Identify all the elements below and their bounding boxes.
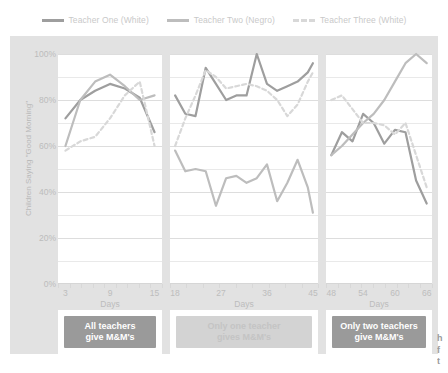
y-tick-label: 60% bbox=[22, 141, 56, 151]
x-tick-mark bbox=[252, 284, 253, 288]
x-tick-label: 27 bbox=[216, 288, 225, 298]
x-tick-mark bbox=[385, 284, 386, 288]
x-tick-label: 18 bbox=[170, 288, 179, 298]
x-tick-label: 54 bbox=[358, 288, 367, 298]
series-line-teacher-three-white bbox=[175, 70, 313, 146]
panel-1 bbox=[58, 54, 162, 284]
chart-area: Children Saying "Good Morning" 0%20%40%6… bbox=[10, 36, 438, 354]
legend-label: Teacher One (White) bbox=[69, 15, 149, 25]
line-swatch-icon bbox=[167, 19, 189, 22]
x-tick-mark bbox=[285, 284, 286, 288]
caption-line-2: gives M&M's bbox=[217, 332, 271, 342]
x-tick-mark bbox=[104, 284, 105, 288]
cropped-edge-text: hft bbox=[437, 333, 447, 367]
caption-line-1: Only one teacher bbox=[207, 321, 280, 331]
legend-item-3: Teacher Three (White) bbox=[293, 15, 407, 25]
dashed-line-swatch-icon bbox=[293, 19, 315, 22]
x-tick-mark bbox=[236, 284, 237, 288]
x-tick-mark bbox=[318, 284, 319, 288]
edge-text-line: t bbox=[437, 356, 447, 367]
panel-3 bbox=[326, 54, 432, 284]
x-tick-mark bbox=[408, 284, 409, 288]
x-tick-label: 60 bbox=[390, 288, 399, 298]
panel-3-caption: Only two teachersgive M&M's bbox=[332, 316, 426, 348]
y-tick-label: 0% bbox=[22, 279, 56, 289]
x-tick-mark bbox=[302, 284, 303, 288]
panel-1-caption: All teachersgive M&M's bbox=[64, 316, 156, 348]
x-axis-title: Days bbox=[170, 299, 318, 309]
x-tick-mark bbox=[81, 284, 82, 288]
x-tick-mark bbox=[338, 284, 339, 288]
line-swatch-icon bbox=[42, 19, 64, 22]
y-tick-label: 80% bbox=[22, 95, 56, 105]
x-tick-label: 15 bbox=[150, 288, 159, 298]
panel-3-series bbox=[326, 54, 432, 284]
x-tick-mark bbox=[162, 284, 163, 288]
caption-line-2: give M&M's bbox=[354, 332, 403, 342]
legend-label: Teacher Two (Negro) bbox=[194, 15, 275, 25]
legend-item-2: Teacher Two (Negro) bbox=[167, 15, 275, 25]
x-axis-title: Days bbox=[326, 299, 432, 309]
x-tick-mark bbox=[203, 284, 204, 288]
panel-2 bbox=[170, 54, 318, 284]
x-tick-label: 3 bbox=[63, 288, 68, 298]
chart-legend: Teacher One (White)Teacher Two (Negro)Te… bbox=[0, 10, 448, 30]
x-tick-label: 66 bbox=[422, 288, 431, 298]
x-tick-label: 36 bbox=[262, 288, 271, 298]
x-tick-mark bbox=[432, 284, 433, 288]
x-tick-mark bbox=[186, 284, 187, 288]
caption-line-1: Only two teachers bbox=[340, 321, 418, 331]
x-tick-label: 9 bbox=[108, 288, 113, 298]
x-axis-title: Days bbox=[58, 299, 162, 309]
panel-1-series bbox=[58, 54, 162, 284]
panel-2-caption: Only one teachergives M&M's bbox=[176, 316, 312, 348]
x-tick-mark bbox=[127, 284, 128, 288]
x-tick-label: 45 bbox=[308, 288, 317, 298]
series-line-teacher-two-negro bbox=[175, 151, 313, 213]
series-line-teacher-two-negro bbox=[331, 54, 426, 155]
x-tick-label: 48 bbox=[327, 288, 336, 298]
series-line-teacher-three-white bbox=[65, 82, 154, 151]
y-tick-label: 40% bbox=[22, 187, 56, 197]
y-tick-label: 100% bbox=[22, 49, 56, 59]
y-tick-label: 20% bbox=[22, 233, 56, 243]
panel-2-series bbox=[170, 54, 318, 284]
x-tick-mark bbox=[116, 284, 117, 288]
series-line-teacher-one-white bbox=[331, 114, 426, 204]
x-tick-mark bbox=[373, 284, 374, 288]
edge-text-line: h bbox=[437, 333, 447, 344]
x-tick-mark bbox=[139, 284, 140, 288]
x-tick-mark bbox=[58, 284, 59, 288]
legend-item-1: Teacher One (White) bbox=[42, 15, 149, 25]
x-tick-mark bbox=[93, 284, 94, 288]
x-tick-mark bbox=[70, 284, 71, 288]
legend-label: Teacher Three (White) bbox=[320, 15, 407, 25]
caption-line-2: give M&M's bbox=[85, 332, 134, 342]
y-axis-title: Children Saying "Good Morning" bbox=[24, 89, 33, 229]
x-tick-mark bbox=[350, 284, 351, 288]
caption-line-1: All teachers bbox=[84, 321, 135, 331]
edge-text-line: f bbox=[437, 345, 447, 356]
